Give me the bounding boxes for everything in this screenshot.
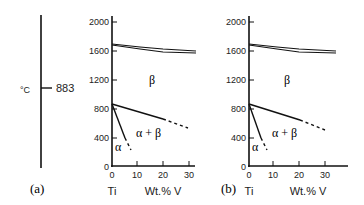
alpha-solvus-line [249, 104, 261, 138]
x-tick-label: 10 [132, 170, 142, 180]
x-tick-label: 10 [268, 170, 278, 180]
y-tick-label: 400 [231, 133, 246, 143]
y-tick-label: 1600 [226, 46, 246, 56]
y-tick-label: 0 [241, 162, 246, 172]
alpha-region-label: α [252, 140, 259, 154]
y-tick-label: 2000 [89, 17, 109, 27]
liquidus-line [249, 44, 336, 51]
y-tick-label: 1200 [226, 75, 246, 85]
x-tick-label: 20 [158, 170, 168, 180]
element-label-ti: Ti [245, 185, 254, 197]
element-label-ti: Ti [108, 185, 117, 197]
y-tick-label: 400 [94, 133, 109, 143]
883-label: 883 [56, 82, 74, 94]
alpha-solvus-line [112, 104, 125, 138]
y-tick-label: 0 [104, 162, 109, 172]
x-tick-label: 0 [246, 170, 251, 180]
solidus-line [112, 45, 196, 53]
y-tick-label: 800 [94, 104, 109, 114]
alpha-beta-region-label: α + β [136, 126, 161, 140]
beta-region-label: β [284, 73, 290, 87]
temperature-scale-panel: °C 883 (a) [20, 15, 74, 196]
x-tick-label: 30 [320, 170, 330, 180]
beta-region-label: β [149, 73, 155, 87]
panel-label-b: (b) [221, 181, 236, 196]
alpha-solvus-dashed [125, 138, 131, 150]
phase-diagram-b: (b) 2000 1600 1200 800 400 0 0 10 20 30 … [221, 16, 348, 197]
x-tick-label: 20 [294, 170, 304, 180]
alpha-region-label: α [115, 140, 122, 154]
x-axis-label: Wt.% V [145, 185, 182, 197]
beta-transus-line [112, 104, 163, 119]
x-axis-label: Wt.% V [290, 185, 327, 197]
y-tick-label: 2000 [226, 17, 246, 27]
x-tick-label: 30 [184, 170, 194, 180]
beta-transus-line [249, 104, 300, 120]
beta-transus-dashed [300, 120, 325, 130]
y-tick-label: 800 [231, 104, 246, 114]
liquidus-line [112, 44, 196, 51]
celsius-label: °C [20, 85, 31, 95]
figure: °C 883 (a) 2000 1600 1200 800 400 0 0 10… [0, 0, 364, 205]
alpha-beta-region-label: α + β [272, 126, 297, 140]
beta-transus-dashed [163, 119, 188, 128]
y-tick-label: 1600 [89, 46, 109, 56]
phase-diagram-a: 2000 1600 1200 800 400 0 0 10 20 30 Ti W… [89, 16, 196, 197]
panel-label-a: (a) [30, 181, 44, 196]
alpha-solvus-dashed [261, 138, 267, 150]
x-tick-label: 0 [109, 170, 114, 180]
y-tick-label: 1200 [89, 75, 109, 85]
